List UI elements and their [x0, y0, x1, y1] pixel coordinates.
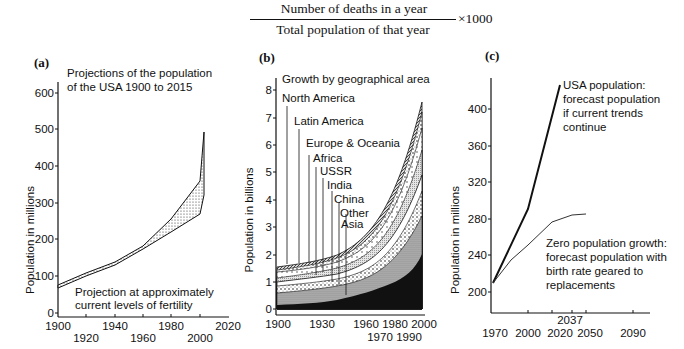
svg-text:2000: 2000 [411, 318, 437, 330]
svg-text:300: 300 [35, 197, 54, 209]
chart-b-title: Growth by geographical area [282, 73, 430, 85]
svg-text:3: 3 [266, 221, 272, 233]
svg-text:100: 100 [35, 270, 54, 282]
svg-text:Zero population growth:: Zero population growth: [546, 237, 667, 249]
svg-text:2: 2 [266, 249, 272, 261]
svg-text:320: 320 [468, 176, 487, 188]
svg-text:2037: 2037 [557, 314, 583, 326]
svg-text:2090: 2090 [620, 327, 646, 339]
svg-text:1980: 1980 [382, 318, 408, 330]
svg-text:replacements: replacements [546, 279, 615, 291]
svg-text:240: 240 [468, 249, 487, 261]
svg-text:600: 600 [35, 87, 54, 99]
chart-c-y-ticks: 200 240 280 320 360 400 [468, 103, 491, 298]
chart-a-note-line2: current levels of fertility [75, 299, 193, 311]
chart-a-x-ticks: 1900 1940 1980 2020 1920 1960 2000 [45, 314, 241, 344]
chart-b: Growth by geographical area 0 1 2 3 4 5 … [243, 73, 437, 343]
chart-c-x-ticks: 1970 2000 2020 2050 2090 2037 [482, 310, 646, 339]
svg-text:0: 0 [266, 303, 272, 315]
legend-india: India [327, 179, 353, 191]
chart-b-y-ticks: 0 1 2 3 4 5 6 7 8 [266, 84, 276, 315]
chart-a-note-line1: Projection at approximately [75, 286, 214, 298]
svg-text:1970: 1970 [482, 327, 508, 339]
svg-text:2000: 2000 [515, 327, 541, 339]
legend-africa: Africa [313, 152, 343, 164]
svg-text:0: 0 [48, 307, 54, 319]
svg-text:500: 500 [35, 123, 54, 135]
legend-asia: Asia [341, 218, 364, 230]
chart-c-usa-annotation: USA population: forecast population if c… [563, 79, 660, 133]
legend-europe-oceania: Europe & Oceania [306, 137, 401, 149]
svg-text:2020: 2020 [215, 320, 241, 332]
svg-text:1960: 1960 [353, 318, 379, 330]
svg-text:1960: 1960 [130, 332, 156, 344]
svg-text:7: 7 [266, 112, 272, 124]
chart-b-y-label: Population in billions [243, 167, 255, 272]
svg-text:birth rate geared to: birth rate geared to [546, 265, 643, 277]
svg-text:2000: 2000 [187, 332, 213, 344]
svg-text:1970: 1970 [367, 331, 393, 343]
svg-text:200: 200 [35, 233, 54, 245]
svg-text:if current trends: if current trends [563, 107, 643, 119]
svg-text:1930: 1930 [309, 318, 335, 330]
chart-c-y-label: Population in millions [449, 186, 461, 294]
svg-text:1900: 1900 [45, 320, 71, 332]
svg-text:4: 4 [266, 194, 273, 206]
svg-text:1: 1 [266, 276, 272, 288]
svg-text:280: 280 [468, 213, 487, 225]
legend-ussr: USSR [320, 165, 352, 177]
chart-c: 200 240 280 320 360 400 1970 2000 2020 2… [449, 78, 667, 339]
svg-text:360: 360 [468, 140, 487, 152]
svg-text:forecast population: forecast population [563, 93, 660, 105]
svg-text:continue: continue [563, 121, 606, 133]
chart-b-x-ticks: 1900 1930 1960 1980 2000 1970 1990 [265, 318, 437, 343]
legend-latin-america: Latin America [294, 115, 364, 127]
svg-text:1900: 1900 [265, 318, 291, 330]
svg-text:6: 6 [266, 139, 272, 151]
svg-text:5: 5 [266, 166, 272, 178]
legend-north-america: North America [282, 92, 355, 104]
chart-a-title-line1: Projections of the population [67, 67, 212, 79]
svg-text:1990: 1990 [396, 331, 422, 343]
svg-text:forecast population with: forecast population with [546, 251, 667, 263]
svg-text:1940: 1940 [102, 320, 128, 332]
svg-text:400: 400 [35, 160, 54, 172]
chart-a: Projections of the population of the USA… [24, 67, 241, 344]
svg-text:1920: 1920 [73, 332, 99, 344]
svg-text:200: 200 [468, 286, 487, 298]
chart-a-projection-band [58, 132, 204, 288]
chart-a-y-ticks: 0 100 200 300 400 500 600 [35, 87, 58, 319]
chart-b-legend: North America Latin America Europe & Oce… [282, 92, 401, 230]
charts-canvas: Projections of the population of the USA… [0, 0, 684, 349]
chart-a-title-line2: of the USA 1900 to 2015 [67, 81, 192, 93]
svg-text:400: 400 [468, 103, 487, 115]
svg-text:2020: 2020 [547, 327, 573, 339]
chart-a-y-label: Population in millions [24, 186, 36, 294]
svg-text:USA population:: USA population: [563, 79, 645, 91]
svg-text:2050: 2050 [577, 327, 603, 339]
legend-china: China [334, 193, 365, 205]
svg-text:8: 8 [266, 84, 272, 96]
svg-text:1980: 1980 [158, 320, 184, 332]
chart-c-zpg-annotation: Zero population growth: forecast populat… [546, 237, 667, 291]
